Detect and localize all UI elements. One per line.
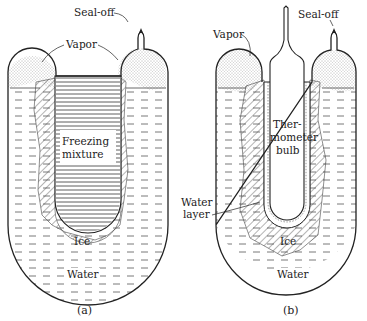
label-vapor-b: Vapor bbox=[212, 28, 245, 40]
label-water-b: Water bbox=[277, 268, 310, 280]
label-freezing-a: Freezing bbox=[62, 135, 109, 147]
label-water-layer-b: Water bbox=[181, 196, 214, 208]
label-mometer-b: mometer bbox=[270, 131, 319, 143]
label-ther-b: Ther- bbox=[273, 118, 302, 130]
label-seal-off-b: Seal-off bbox=[298, 8, 340, 20]
caption-b: (b) bbox=[283, 304, 299, 317]
label-seal-off-a: Seal-off bbox=[74, 6, 116, 18]
seal-off-tip-icon bbox=[139, 28, 143, 33]
label-vapor-a: Vapor bbox=[65, 38, 98, 50]
label-layer-b: layer bbox=[183, 208, 211, 220]
label-water-a: Water bbox=[67, 268, 100, 280]
label-mixture-a: mixture bbox=[62, 148, 103, 160]
panel-a: Seal-off Vapor Freezing mixture Ice Wate… bbox=[8, 6, 168, 317]
label-bulb-b: bulb bbox=[276, 144, 300, 156]
panel-b: Seal-off Vapor Ther- mometer bulb Water … bbox=[181, 6, 356, 317]
label-ice-a: Ice bbox=[74, 235, 90, 247]
thermometer-bulb bbox=[270, 6, 304, 220]
seal-off-tip-icon-b bbox=[332, 28, 336, 33]
triple-point-cell-diagram: Seal-off Vapor Freezing mixture Ice Wate… bbox=[0, 0, 367, 321]
caption-a: (a) bbox=[77, 304, 92, 317]
label-ice-b: Ice bbox=[280, 235, 296, 247]
